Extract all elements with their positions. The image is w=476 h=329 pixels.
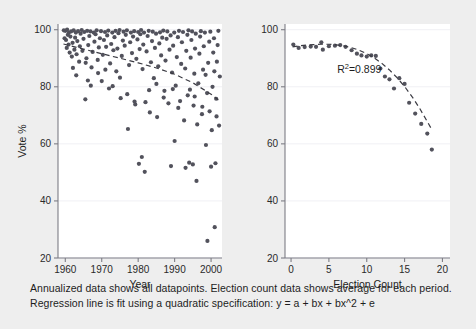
y-axis-tick-label: 80 [267,81,279,92]
data-point [185,33,189,37]
data-point [152,76,156,80]
data-point [176,35,180,39]
data-point [125,28,129,32]
data-point [143,170,147,174]
data-point [153,46,157,50]
data-point [202,44,206,48]
plot-area [285,24,450,258]
data-point [104,45,108,49]
data-point [314,45,318,49]
data-point [193,94,197,98]
data-point [197,52,201,56]
data-point [84,61,88,65]
data-point [157,41,161,45]
data-point [148,110,152,114]
data-point [111,84,115,88]
figure-container: 2040608010019601970198019902000YearVote … [0,0,476,329]
figure-caption: Annualized data shows all datapoints. El… [30,281,460,310]
data-point [108,61,112,65]
data-point [321,48,325,52]
data-point [111,48,115,52]
data-point [169,33,173,37]
data-point [198,34,202,38]
data-point [191,162,195,166]
data-point [200,112,204,116]
x-axis-tick-label: 1980 [127,264,150,275]
data-point [171,44,175,48]
data-point [143,100,147,104]
data-point [192,72,196,76]
data-point [199,29,203,33]
data-point [123,44,127,48]
data-point [154,82,158,86]
data-point [207,40,211,44]
data-point [83,97,87,101]
data-point [124,33,128,37]
data-point [180,40,184,44]
y-axis-tick-label: 20 [267,253,279,264]
data-point [165,29,169,33]
data-point [81,37,85,41]
data-point [175,55,179,59]
data-point [117,28,121,32]
chart-annualized-by-year: 2040608010019601970198019902000YearVote … [16,24,223,290]
data-point [167,48,171,52]
x-axis-tick-label: 20 [437,264,449,275]
y-axis-tick-label: 20 [40,253,52,264]
data-point [95,28,99,32]
data-point [68,50,72,54]
data-point [134,57,138,61]
data-point [187,161,191,165]
x-axis-tick-label: 1990 [163,264,186,275]
data-point [166,101,170,105]
data-point [161,28,165,32]
data-point [96,58,100,62]
data-point [186,28,190,32]
data-point [213,161,217,165]
data-point [214,114,218,118]
data-point [204,143,208,147]
data-point [118,76,122,80]
data-point [186,93,190,97]
data-point [155,115,159,119]
data-point [181,30,185,34]
data-point [147,88,151,92]
data-point [425,131,429,135]
data-point [163,58,167,62]
data-point [195,122,199,126]
x-axis-tick-label: 0 [288,264,294,275]
data-point [194,32,198,36]
x-axis-tick-label: 5 [326,264,332,275]
data-point [70,54,74,58]
data-point [106,28,110,32]
data-point [387,77,391,81]
data-point [146,34,150,38]
data-point [210,85,214,89]
data-point [89,65,93,69]
data-point [96,71,100,75]
data-point [74,73,78,77]
data-point [407,101,411,105]
data-point [71,66,75,70]
data-point [208,109,212,113]
data-point [201,68,205,72]
data-point [127,63,131,67]
r-squared-annotation: R2=0.899 [337,62,381,75]
data-point [355,52,359,56]
data-point [121,38,125,42]
data-point [210,128,214,132]
data-point [206,61,210,65]
data-point [200,105,204,109]
data-point [419,122,423,126]
data-point [100,79,104,83]
data-point [138,32,142,36]
data-point [191,104,195,108]
y-axis-tick-label: 100 [34,24,51,35]
data-point [165,37,169,41]
data-point [101,53,105,57]
data-point [217,123,221,127]
data-point [114,69,118,73]
data-point [173,139,177,143]
data-point [178,99,182,103]
data-point [216,29,220,33]
